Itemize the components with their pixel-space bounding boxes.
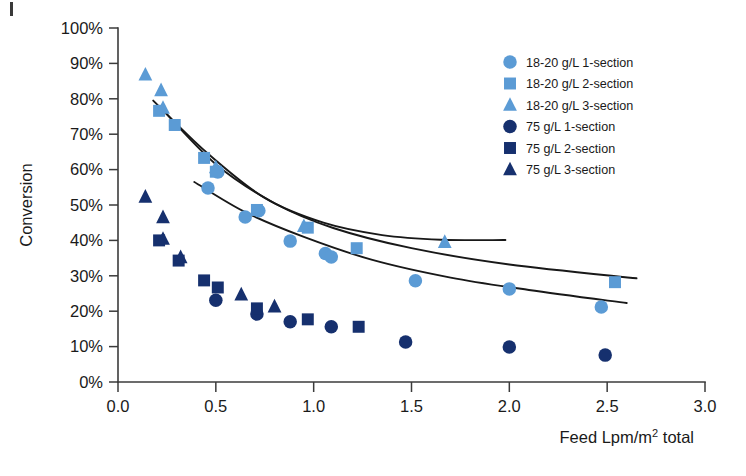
legend-label: 18-20 g/L 2-section — [526, 77, 633, 91]
data-point-triangle — [156, 210, 170, 224]
y-tick-label: 90% — [70, 54, 103, 72]
data-point-square — [212, 282, 224, 294]
data-point-circle — [409, 274, 423, 288]
data-point-circle — [283, 234, 297, 248]
y-axis-group: 0%10%20%30%40%50%60%70%80%90%100% Conver… — [17, 19, 118, 391]
data-point-triangle — [139, 67, 153, 81]
y-tick-label: 100% — [61, 19, 104, 37]
y-tick-label: 20% — [70, 302, 103, 320]
legend-marker-square — [504, 78, 516, 90]
series-18-20-g-l-1-section — [201, 165, 608, 313]
x-axis-tick-labels: 0.00.51.01.52.02.53.0 — [107, 397, 717, 415]
data-point-square — [198, 152, 210, 164]
series-18-20-g-l-3-section — [139, 67, 452, 248]
y-tick-label: 50% — [70, 196, 103, 214]
y-axis-title: Conversion — [17, 163, 35, 246]
data-point-square — [351, 242, 363, 254]
data-point-triangle — [268, 299, 282, 313]
x-tick-label: 1.5 — [400, 397, 423, 415]
data-point-circle — [325, 250, 339, 264]
y-tick-label: 60% — [70, 160, 103, 178]
data-point-circle — [283, 315, 297, 329]
data-point-square — [169, 119, 181, 131]
trend-3-section — [153, 101, 505, 241]
x-tick-label: 2.0 — [498, 397, 521, 415]
legend-marker-triangle — [503, 162, 517, 176]
data-point-circle — [399, 335, 413, 349]
legend-item-1[interactable]: 18-20 g/L 2-section — [504, 77, 633, 91]
data-point-triangle — [234, 287, 248, 301]
legend-marker-triangle — [503, 97, 517, 111]
legend-item-0[interactable]: 18-20 g/L 1-section — [503, 55, 633, 70]
legend-item-3[interactable]: 75 g/L 1-section — [503, 120, 615, 135]
y-axis-tick-labels: 0%10%20%30%40%50%60%70%80%90%100% — [61, 19, 104, 391]
data-point-square — [251, 302, 263, 314]
x-tick-label: 1.0 — [302, 397, 325, 415]
data-point-square — [302, 313, 314, 325]
legend-marker-circle — [503, 120, 517, 134]
data-point-circle — [503, 282, 517, 296]
data-point-square — [353, 321, 365, 333]
data-point-triangle — [139, 189, 153, 203]
legend-marker-square — [504, 142, 516, 154]
data-point-triangle — [154, 83, 168, 97]
legend-label: 18-20 g/L 3-section — [526, 99, 633, 113]
series-75-g-l-1-section — [209, 293, 612, 361]
x-tick-label: 0.0 — [107, 397, 130, 415]
legend-item-5[interactable]: 75 g/L 3-section — [503, 162, 615, 178]
data-point-circle — [201, 181, 215, 195]
chart-legend: 18-20 g/L 1-section18-20 g/L 2-section18… — [503, 55, 633, 177]
data-point-square — [609, 276, 621, 288]
data-point-circle — [209, 293, 223, 307]
y-tick-label: 10% — [70, 337, 103, 355]
chart-figure: 0%10%20%30%40%50%60%70%80%90%100% Conver… — [0, 0, 746, 476]
data-point-circle — [238, 210, 252, 224]
legend-label: 18-20 g/L 1-section — [526, 56, 633, 70]
legend-label: 75 g/L 2-section — [526, 142, 615, 156]
conversion-vs-feed-scatter-chart: 0%10%20%30%40%50%60%70%80%90%100% Conver… — [0, 0, 746, 476]
legend-label: 75 g/L 1-section — [526, 120, 615, 134]
y-axis-ticks — [109, 28, 118, 382]
legend-marker-circle — [503, 55, 517, 69]
x-tick-label: 3.0 — [694, 397, 717, 415]
x-axis-title: Feed Lpm/m2 total — [559, 427, 694, 446]
data-point-square — [251, 204, 263, 216]
y-tick-label: 0% — [79, 373, 103, 391]
y-tick-label: 40% — [70, 231, 103, 249]
x-tick-label: 0.5 — [204, 397, 227, 415]
x-axis-ticks — [118, 382, 705, 392]
data-point-circle — [595, 300, 609, 314]
x-tick-label: 2.5 — [596, 397, 619, 415]
legend-item-2[interactable]: 18-20 g/L 3-section — [503, 97, 633, 113]
y-tick-label: 70% — [70, 125, 103, 143]
legend-label: 75 g/L 3-section — [526, 163, 615, 177]
data-point-circle — [503, 340, 517, 354]
y-tick-label: 80% — [70, 90, 103, 108]
y-tick-label: 30% — [70, 267, 103, 285]
data-point-square — [198, 274, 210, 286]
data-point-circle — [598, 348, 612, 362]
legend-item-4[interactable]: 75 g/L 2-section — [504, 142, 615, 156]
data-point-circle — [325, 320, 339, 334]
data-point-triangle — [438, 234, 452, 248]
x-axis-group: 0.00.51.01.52.02.53.0 Feed Lpm/m2 total — [107, 382, 717, 446]
